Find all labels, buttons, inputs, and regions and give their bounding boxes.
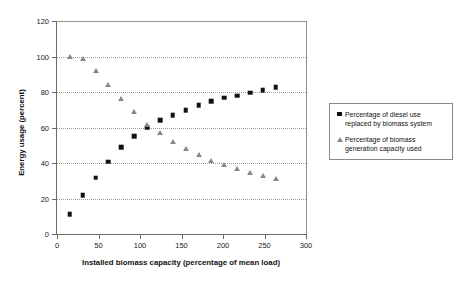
x-tick-250: [265, 234, 266, 239]
data-point: [222, 95, 227, 100]
chart-figure: Energy usage (percent) 02040608010012005…: [0, 0, 463, 282]
data-point: [273, 85, 278, 90]
x-axis-title: Installed biomass capacity (percentage o…: [56, 258, 306, 267]
data-point: [119, 145, 124, 150]
data-point: [80, 56, 86, 61]
y-tick-100: [52, 57, 57, 58]
data-point: [208, 158, 214, 163]
data-point: [67, 54, 73, 59]
data-point: [157, 130, 163, 135]
data-point: [196, 152, 202, 157]
y-tick-label-80: 80: [41, 88, 49, 97]
data-point: [273, 176, 279, 181]
data-point: [131, 109, 137, 114]
data-point: [106, 159, 111, 164]
x-tick-50: [99, 234, 100, 239]
gridline-y-20: [57, 199, 306, 200]
plot-area: 020406080100120050100150200250300: [56, 21, 306, 235]
x-tick-label-0: 0: [55, 241, 59, 250]
x-tick-300: [306, 234, 307, 239]
data-point: [132, 134, 137, 139]
data-point: [234, 166, 240, 171]
x-tick-label-300: 300: [300, 241, 313, 250]
legend-triangle-marker-icon: [334, 135, 345, 142]
gridline-y-80: [57, 92, 306, 93]
y-axis-title: Energy usage (percent): [17, 68, 26, 198]
data-point: [183, 108, 188, 113]
y-tick-60: [52, 128, 57, 129]
legend-label: Percentage of diesel use replaced by bio…: [345, 110, 447, 129]
data-point: [235, 94, 240, 99]
legend-item-diesel: Percentage of diesel use replaced by bio…: [334, 110, 447, 129]
data-point: [158, 118, 163, 123]
x-tick-label-50: 50: [94, 241, 102, 250]
data-point: [196, 103, 201, 108]
data-point: [93, 175, 98, 180]
data-point: [248, 90, 253, 95]
data-point: [183, 146, 189, 151]
data-point: [221, 162, 227, 167]
y-tick-label-40: 40: [41, 159, 49, 168]
y-tick-label-0: 0: [45, 230, 49, 239]
y-tick-40: [52, 163, 57, 164]
data-point: [144, 122, 150, 127]
x-tick-label-250: 250: [258, 241, 271, 250]
x-tick-150: [182, 234, 183, 239]
x-tick-100: [140, 234, 141, 239]
data-point: [247, 170, 253, 175]
plot-frame-right: [306, 21, 307, 235]
x-tick-200: [223, 234, 224, 239]
y-tick-80: [52, 92, 57, 93]
gridline-y-40: [57, 163, 306, 164]
legend-label: Percentage of biomass generation capacit…: [345, 135, 447, 154]
x-tick-label-150: 150: [175, 241, 188, 250]
gridline-y-120: [57, 21, 306, 22]
data-point: [93, 68, 99, 73]
gridline-y-100: [57, 57, 306, 58]
data-point: [260, 174, 266, 179]
y-tick-label-20: 20: [41, 194, 49, 203]
x-tick-label-200: 200: [217, 241, 230, 250]
chart-legend: Percentage of diesel use replaced by bio…: [329, 103, 453, 160]
data-point: [68, 212, 73, 217]
data-point: [261, 88, 266, 93]
data-point: [105, 82, 111, 87]
data-point: [170, 139, 176, 144]
data-point: [80, 193, 85, 198]
data-point: [118, 97, 124, 102]
y-tick-20: [52, 199, 57, 200]
gridline-y-60: [57, 128, 306, 129]
data-point: [209, 99, 214, 104]
y-tick-120: [52, 21, 57, 22]
data-point: [170, 113, 175, 118]
x-tick-label-100: 100: [134, 241, 147, 250]
legend-square-marker-icon: [334, 110, 345, 116]
y-tick-label-60: 60: [41, 123, 49, 132]
y-tick-label-100: 100: [36, 52, 49, 61]
legend-item-capacity: Percentage of biomass generation capacit…: [334, 135, 447, 154]
x-tick-0: [57, 234, 58, 239]
y-tick-label-120: 120: [36, 17, 49, 26]
